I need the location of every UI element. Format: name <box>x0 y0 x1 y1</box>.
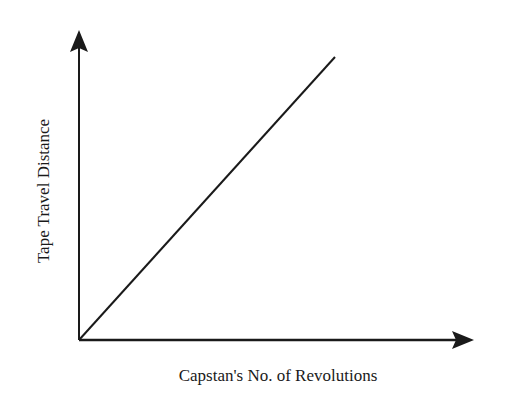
x-axis-label: Capstan's No. of Revolutions <box>179 366 378 385</box>
proportional-line <box>79 57 335 340</box>
diagram-canvas: Capstan's No. of Revolutions Tape Travel… <box>0 0 508 403</box>
y-axis-label: Tape Travel Distance <box>34 119 53 263</box>
